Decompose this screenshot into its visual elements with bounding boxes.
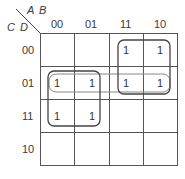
cell-10-10 — [143, 132, 177, 165]
cell-01-11: 1 — [109, 66, 143, 99]
cell-11-01: 1 — [75, 99, 109, 132]
cell-01-00: 1 — [40, 66, 74, 99]
row-variables-label: C D — [7, 21, 29, 33]
col-label-11: 11 — [120, 18, 131, 30]
col-label-00: 00 — [51, 18, 63, 30]
cell-11-10 — [143, 99, 177, 132]
column-variables-label: A B — [27, 4, 47, 16]
row-label-00: 00 — [22, 44, 34, 56]
cell-11-00: 1 — [40, 99, 74, 132]
row-label-10: 10 — [22, 143, 34, 155]
cell-11-11 — [109, 99, 143, 132]
cell-00-11: 1 — [109, 33, 143, 66]
cell-00-01 — [75, 33, 109, 66]
row-label-11: 11 — [22, 110, 33, 122]
cell-10-00 — [40, 132, 74, 165]
cell-10-01 — [75, 132, 109, 165]
col-label-01: 01 — [85, 18, 97, 30]
cell-01-01: 1 — [75, 66, 109, 99]
cell-01-10: 1 — [143, 66, 177, 99]
col-label-10: 10 — [154, 18, 166, 30]
cell-10-11 — [109, 132, 143, 165]
cell-00-10: 1 — [143, 33, 177, 66]
row-label-01: 01 — [22, 77, 34, 89]
cell-00-00 — [40, 33, 74, 66]
